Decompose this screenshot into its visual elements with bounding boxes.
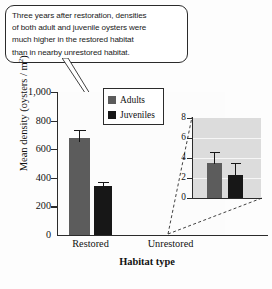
legend-label-juveniles: Juveniles: [120, 110, 155, 120]
inset-y-tick-label-2: 2: [174, 172, 186, 182]
x-tick-label-restored: Restored: [58, 238, 123, 249]
inset-errorbar-juveniles-cap: [231, 163, 241, 164]
y-axis-title-exponent: 2: [17, 59, 25, 63]
legend: Adults Juveniles: [103, 88, 164, 125]
x-axis-title: Habitat type: [57, 256, 237, 267]
inset-bar-adults: [207, 163, 222, 198]
x-axis-line: [57, 235, 268, 236]
inset-y-tick-label-0: 0: [174, 192, 186, 202]
inset-y-tick-label-6: 6: [174, 132, 186, 142]
inset-y-axis-line: [192, 117, 193, 199]
y-tick-mark-200: [51, 206, 57, 207]
callout-box: Three years after restoration, densities…: [5, 5, 188, 63]
inset-plot-area: [192, 118, 261, 198]
inset-x-axis-line: [192, 198, 262, 199]
legend-item-juveniles: Juveniles: [108, 107, 163, 122]
y-axis-line: [57, 92, 58, 236]
bar-restored-juveniles: [94, 186, 112, 235]
inset-bar-juveniles: [228, 175, 243, 198]
y-tick-mark-600: [51, 149, 57, 150]
inset-gridline-6: [192, 138, 261, 139]
inset-errorbar-adults-line: [214, 152, 215, 164]
legend-label-adults: Adults: [120, 95, 145, 105]
inset-y-tick-label-4: 4: [174, 152, 186, 162]
y-tick-label-0: 0: [5, 229, 51, 240]
y-tick-label-600: 600: [5, 143, 51, 154]
inset-errorbar-adults-cap: [210, 152, 220, 153]
inset-gridline-2: [192, 178, 261, 179]
y-tick-label-800: 800: [5, 115, 51, 126]
legend-swatch-adults-icon: [108, 96, 116, 104]
y-tick-mark-400: [51, 178, 57, 179]
inset-y-tick-mark-0: [187, 198, 192, 199]
callout-line-4: than in nearby unrestored habitat.: [12, 47, 182, 59]
y-tick-mark-1000: [51, 92, 57, 93]
x-tick-label-unrestored: Unrestored: [133, 238, 208, 249]
callout-line-2: of both adult and juvenile oysters were: [12, 22, 182, 34]
y-axis-title: Mean density (oysters / m2): [17, 38, 30, 188]
y-tick-label-200: 200: [5, 200, 51, 211]
legend-item-adults: Adults: [108, 92, 163, 107]
bar-restored-adults: [69, 138, 90, 235]
callout-line-1: Three years after restoration, densities: [12, 10, 182, 22]
inset-y-tick-label-8: 8: [174, 112, 186, 122]
callout-line-3: much higher in the restored habitat: [12, 34, 182, 46]
errorbar-restored-adults-line: [79, 130, 80, 142]
inset-y-tick-mark-6: [187, 138, 192, 139]
legend-swatch-juveniles-icon: [108, 111, 116, 119]
errorbar-restored-juveniles-cap: [98, 182, 109, 183]
errorbar-restored-adults-cap: [74, 130, 86, 131]
y-tick-mark-800: [51, 121, 57, 122]
inset-gridline-4: [192, 158, 261, 159]
oyster-density-figure: Three years after restoration, densities…: [0, 0, 272, 289]
inset-errorbar-juveniles-line: [235, 163, 236, 176]
y-axis-title-paren: ): [18, 55, 29, 59]
y-tick-label-1000: 1,000: [5, 86, 51, 97]
inset-y-tick-mark-4: [187, 158, 192, 159]
y-tick-label-400: 400: [5, 172, 51, 183]
inset-y-tick-mark-2: [187, 178, 192, 179]
inset-y-tick-mark-8: [187, 118, 192, 119]
